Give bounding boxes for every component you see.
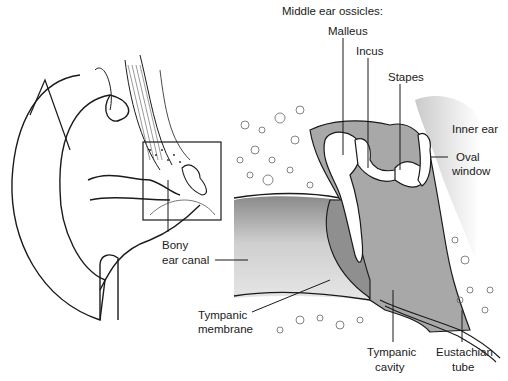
label-bony-canal-line1: Bony: [162, 238, 188, 252]
label-incus: Incus: [356, 44, 384, 58]
label-oval-window-line1: Oval: [456, 150, 480, 164]
label-eustachian-line1: Eustachian: [436, 345, 493, 359]
inset-eardrum: [182, 165, 206, 195]
ear-anatomy-illustration: [0, 0, 508, 381]
label-tympanic-cavity-line2: cavity: [375, 360, 404, 374]
label-oval-window-line2: window: [452, 164, 490, 178]
outer-ear-hatching: [128, 65, 162, 160]
label-inner-ear: Inner ear: [452, 122, 498, 136]
label-stapes: Stapes: [388, 70, 424, 84]
heading-middle-ear-ossicles: Middle ear ossicles:: [282, 4, 383, 18]
label-malleus: Malleus: [328, 24, 368, 38]
outer-ear-drawing: [12, 55, 200, 320]
label-tympanic-membrane-line1: Tympanic: [198, 308, 247, 322]
label-tympanic-cavity-line1: Tympanic: [367, 345, 416, 359]
label-bony-canal-line2: ear canal: [162, 253, 209, 267]
label-tympanic-membrane-line2: membrane: [198, 322, 253, 336]
label-eustachian-line2: tube: [452, 360, 474, 374]
